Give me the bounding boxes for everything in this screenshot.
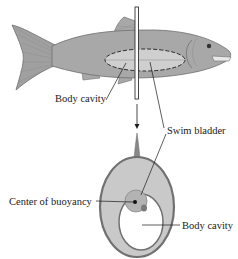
fish-side-view <box>12 17 231 90</box>
arrow-down-icon <box>135 104 140 129</box>
center-of-buoyancy-dot <box>133 200 137 204</box>
dorsal-fin-section <box>134 133 140 159</box>
label-swim-bladder: Swim bladder <box>167 125 226 136</box>
organ-section <box>141 205 147 212</box>
label-center-of-buoyancy: Center of buoyancy <box>9 196 93 207</box>
label-body-cavity-top: Body cavity <box>55 93 107 104</box>
fish-buoyancy-diagram: Body cavity Swim bladder Center of buoya… <box>0 0 238 259</box>
section-plane-rod <box>135 7 139 99</box>
fish-mouth <box>212 56 231 61</box>
fish-cross-section <box>100 133 174 257</box>
fish-eye <box>207 44 211 48</box>
label-body-cavity-bottom: Body cavity <box>182 220 234 231</box>
